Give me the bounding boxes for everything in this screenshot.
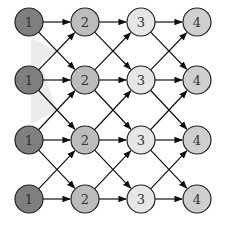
edges	[39, 22, 187, 199]
node-r4-c3: 3	[127, 185, 155, 213]
node-r1-c2: 2	[71, 8, 99, 36]
node-label: 4	[193, 73, 201, 88]
node-r1-c1: 1	[15, 8, 43, 36]
node-label: 2	[81, 73, 89, 88]
node-r2-c2: 2	[71, 66, 99, 94]
node-label: 3	[137, 133, 145, 148]
node-r2-c4: 4	[183, 66, 211, 94]
node-label: 1	[25, 192, 33, 207]
node-r4-c4: 4	[183, 185, 211, 213]
node-r2-c3: 3	[127, 66, 155, 94]
node-r3-c4: 4	[183, 126, 211, 154]
node-label: 3	[137, 73, 145, 88]
node-label: 1	[25, 15, 33, 30]
node-label: 3	[137, 15, 145, 30]
node-label: 4	[193, 192, 201, 207]
node-r3-c2: 2	[71, 126, 99, 154]
node-r4-c2: 2	[71, 185, 99, 213]
node-label: 1	[25, 73, 33, 88]
node-label: 2	[81, 192, 89, 207]
node-label: 3	[137, 192, 145, 207]
node-label: 4	[193, 15, 201, 30]
node-r1-c3: 3	[127, 8, 155, 36]
node-label: 2	[81, 15, 89, 30]
node-r3-c3: 3	[127, 126, 155, 154]
node-r4-c1: 1	[15, 185, 43, 213]
node-r3-c1: 1	[15, 126, 43, 154]
node-label: 2	[81, 133, 89, 148]
node-r2-c1: 1	[15, 66, 43, 94]
node-r1-c4: 4	[183, 8, 211, 36]
node-label: 1	[25, 133, 33, 148]
lattice-diagram: 1234123412341234	[0, 0, 227, 226]
node-label: 4	[193, 133, 201, 148]
